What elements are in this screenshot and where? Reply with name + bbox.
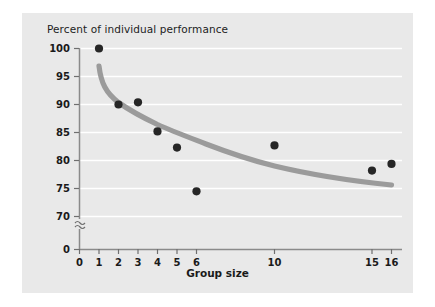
data-point bbox=[368, 167, 376, 175]
y-tick-label-95: 95 bbox=[34, 71, 70, 82]
y-tick-label-0: 0 bbox=[34, 244, 70, 255]
data-point bbox=[114, 100, 122, 108]
chart-panel: Percent of individual performance bbox=[22, 13, 413, 293]
y-tick-marks bbox=[74, 49, 79, 250]
y-tick-label-100: 100 bbox=[34, 43, 70, 54]
data-point bbox=[270, 141, 278, 149]
data-point bbox=[95, 44, 103, 52]
x-axis-title: Group size bbox=[22, 267, 413, 279]
data-point bbox=[192, 187, 200, 195]
data-point bbox=[387, 160, 395, 168]
data-points bbox=[95, 44, 396, 195]
y-tick-label-85: 85 bbox=[34, 127, 70, 138]
trend-curve bbox=[99, 66, 392, 185]
data-point bbox=[173, 144, 181, 152]
y-tick-label-80: 80 bbox=[34, 155, 70, 166]
gridlines bbox=[79, 49, 402, 217]
data-point bbox=[134, 98, 142, 106]
y-tick-label-70: 70 bbox=[34, 211, 70, 222]
axis-break-icon bbox=[75, 222, 85, 229]
y-tick-label-75: 75 bbox=[34, 183, 70, 194]
data-point bbox=[153, 127, 161, 135]
chart-plot-area bbox=[22, 13, 413, 293]
y-tick-label-90: 90 bbox=[34, 99, 70, 110]
